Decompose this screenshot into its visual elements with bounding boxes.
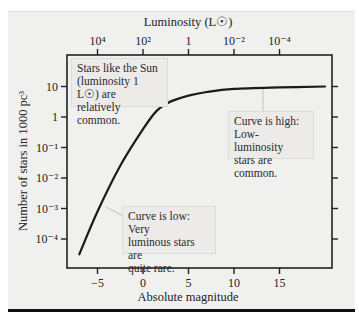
bottom-rule: [8, 309, 355, 312]
y-tick-label: 1: [52, 110, 58, 124]
x-axis-title: Absolute magnitude: [137, 290, 238, 304]
low-leader-line: [106, 207, 123, 216]
y-tick-label: 10⁻⁴: [35, 232, 58, 246]
top-x-tick-label: 10⁻⁴: [268, 34, 291, 48]
annotation-curve-high: Curve is high: Low-luminosity stars are …: [228, 111, 314, 159]
x-tick-label: 10: [228, 276, 240, 290]
y-axis-title: Number of stars in 1000 pc³: [16, 91, 30, 231]
annotation-curve-low: Curve is low: Very luminous stars are qu…: [122, 206, 216, 254]
annotation-line: Low-luminosity: [234, 128, 308, 154]
top-x-tick-label: 10²: [135, 34, 151, 48]
y-tick-label: 10⁻³: [36, 202, 58, 216]
annotation-line: luminous stars are: [128, 236, 210, 262]
annotation-line: (luminosity 1 L☉) are: [77, 75, 162, 101]
annotation-line: Curve is low: Very: [128, 210, 210, 236]
annotation-line: Stars like the Sun: [77, 62, 162, 75]
top-x-tick-label: 10⁴: [89, 34, 105, 48]
top-x-tick-label: 1: [186, 34, 192, 48]
y-tick-label: 10: [46, 80, 58, 94]
x-tick-label: −5: [91, 276, 104, 290]
top-x-tick-label: 10⁻²: [223, 34, 245, 48]
top-axis-title: Luminosity (L☉): [144, 15, 233, 29]
annotation-sun-like-stars: Stars like the Sun (luminosity 1 L☉) are…: [71, 58, 168, 107]
y-tick-label: 10⁻²: [36, 171, 58, 185]
top-x-axis-ticks: 10⁴10²110⁻²10⁻⁴: [89, 34, 290, 55]
x-tick-label: 5: [186, 276, 192, 290]
y-tick-label: 10⁻¹: [36, 141, 58, 155]
annotation-line: stars are common.: [234, 154, 308, 180]
annotation-line: quite rare.: [128, 262, 210, 275]
annotation-line: relatively common.: [77, 101, 162, 127]
annotation-line: Curve is high:: [234, 115, 308, 128]
x-tick-label: 15: [274, 276, 286, 290]
x-tick-label: 0: [140, 276, 146, 290]
